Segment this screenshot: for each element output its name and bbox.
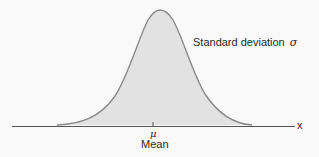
curve-area <box>57 10 252 125</box>
normal-distribution-diagram: Standard deviation σ x μ Mean <box>0 0 319 157</box>
mean-label: Mean <box>141 138 169 150</box>
x-axis-variable-label: x <box>297 119 303 131</box>
standard-deviation-text: Standard deviation <box>193 36 285 48</box>
sigma-symbol: σ <box>290 36 298 49</box>
standard-deviation-label: Standard deviation σ <box>193 36 297 49</box>
bell-curve-plot <box>0 0 319 157</box>
